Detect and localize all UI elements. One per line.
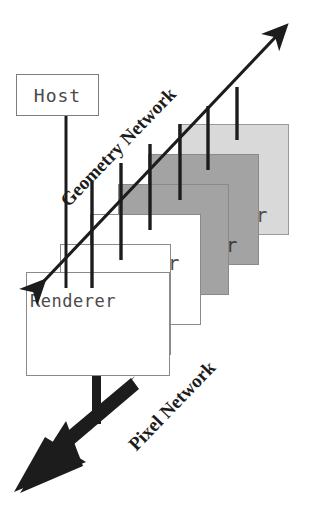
geometry-network-arrow [44,26,286,281]
pixel-network-arrow [14,376,139,493]
geometry-drop-lines [92,87,237,288]
diagram-canvas: r r r r Renderer Host [0,0,326,507]
